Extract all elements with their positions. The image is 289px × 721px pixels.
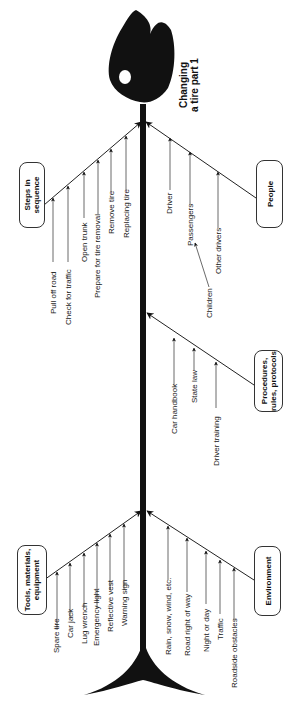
category-box-steps: Steps in sequence xyxy=(19,162,45,228)
cause-item: Pull off road xyxy=(49,271,58,314)
cause-item: Spare tire xyxy=(52,618,61,653)
category-label-environment: Environment xyxy=(263,557,272,606)
category-label-steps: Steps in sequence xyxy=(23,177,41,214)
cause-item: Lug wrench xyxy=(80,603,89,644)
cause-item: Road right of way xyxy=(183,594,192,656)
cause-item: Car jack xyxy=(66,609,75,638)
cause-item: Passengers xyxy=(186,204,195,246)
cause-item: Warning sign xyxy=(120,580,129,626)
category-label-procedures: Procedures, rules, protocols xyxy=(260,351,278,411)
cause-item: Check for traffic xyxy=(64,269,73,325)
category-box-environment: Environment xyxy=(254,546,281,616)
cause-item: Driver xyxy=(165,193,174,214)
sub-cause-item: Children xyxy=(205,288,214,318)
cause-item: Other drivers xyxy=(214,228,223,274)
category-box-procedures: Procedures, rules, protocols xyxy=(254,350,283,412)
spine-line xyxy=(140,104,146,656)
category-label-people: People xyxy=(265,181,274,207)
cause-item: Emergency light xyxy=(92,589,101,646)
category-box-tools: Tools, materials, equipment xyxy=(17,545,47,615)
cause-item: Night or day xyxy=(202,609,211,652)
category-box-people: People xyxy=(256,160,283,228)
fish-head-icon xyxy=(109,10,175,102)
diagram-title: Changing a tire part 1 xyxy=(178,58,200,112)
cause-item: Car handbook xyxy=(170,384,179,434)
cause-item: Rain, snow, wind, etc. xyxy=(164,578,173,655)
cause-item: Driver training xyxy=(212,416,221,466)
cause-item: Traffic xyxy=(216,618,225,640)
cause-item: Open trunk xyxy=(80,222,89,262)
category-label-tools: Tools, materials, equipment xyxy=(23,549,41,612)
cause-item: Roadside obstacles xyxy=(230,618,239,688)
cause-item: Reflective vest xyxy=(106,580,115,632)
cause-item: Replacing tire xyxy=(122,189,131,238)
cause-item: State law xyxy=(190,370,199,403)
cause-item: Remove tire xyxy=(107,191,116,234)
cause-item: Prepare for tire removal xyxy=(93,214,102,298)
fishbone-diagram: Changing a tire part 1 Steps in sequence… xyxy=(0,0,289,721)
